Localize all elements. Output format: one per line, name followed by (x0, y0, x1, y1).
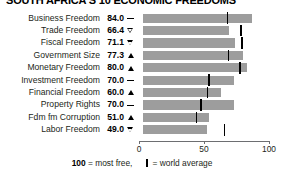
row-label: Labor Freedom (0, 125, 104, 134)
chart-row: Trade Freedom66.4 (0, 24, 284, 36)
trend-glyph (128, 28, 134, 33)
chart-row: Labor Freedom49.0 (0, 124, 284, 136)
trend-down-icon (124, 125, 137, 134)
row-plot (137, 74, 284, 86)
trend-flat-icon (124, 100, 137, 109)
chart-row: Financial Freedom60.0 (0, 86, 284, 98)
trend-glyph (128, 53, 134, 58)
row-plot (137, 37, 284, 49)
row-label: Property Rights (0, 100, 104, 109)
trend-up-icon (124, 63, 137, 72)
world-average-tick (239, 62, 241, 74)
chart-row: Fiscal Freedom71.1 (0, 37, 284, 49)
world-average-tick (196, 112, 198, 124)
row-label: Financial Freedom (0, 88, 104, 97)
row-label: Government Size (0, 51, 104, 60)
row-value: 49.0 (104, 125, 124, 134)
axis-tick-label: 100 (262, 144, 276, 154)
world-average-tick (224, 124, 226, 136)
world-average-tick (208, 74, 210, 86)
trend-down-icon (124, 38, 137, 47)
world-average-tick (241, 37, 243, 49)
trend-up-icon (124, 113, 137, 122)
trend-glyph (128, 115, 134, 120)
row-plot (137, 12, 284, 24)
world-average-marker-icon (146, 159, 148, 167)
row-value: 70.0 (104, 76, 124, 85)
chart-legend: 100 = most free, = world average (0, 158, 284, 169)
economic-freedoms-chart: SOUTH AFRICA'S 10 ECONOMIC FREEDOMS Busi… (0, 0, 284, 176)
legend-world-average-text: = world average (150, 158, 212, 168)
row-plot (137, 49, 284, 61)
trend-down-icon (124, 26, 137, 35)
chart-row: Property Rights70.0 (0, 99, 284, 111)
chart-row: Monetary Freedom80.0 (0, 62, 284, 74)
value-bar (143, 26, 229, 35)
legend-most-free-text: = most free, (86, 158, 133, 168)
trend-flat-icon (124, 76, 137, 85)
value-bar (143, 125, 207, 134)
bar-rows: Business Freedom84.0Trade Freedom66.4Fis… (0, 12, 284, 136)
value-bar (143, 14, 252, 23)
row-label: Monetary Freedom (0, 63, 104, 72)
value-bar (143, 113, 209, 122)
row-value: 71.1 (104, 38, 124, 47)
world-average-tick (227, 12, 229, 24)
chart-row: Investment Freedom70.0 (0, 74, 284, 86)
trend-glyph (127, 80, 134, 82)
value-bar (143, 63, 247, 72)
row-plot (137, 62, 284, 74)
trend-flat-icon (124, 14, 137, 23)
value-bar (143, 88, 221, 97)
row-label: Fdm fm Corruption (0, 113, 104, 122)
world-average-tick (200, 99, 202, 111)
chart-row: Fdm fm Corruption51.0 (0, 111, 284, 123)
row-value: 77.3 (104, 51, 124, 60)
trend-up-icon (124, 88, 137, 97)
axis-tick-label: 0 (137, 144, 142, 154)
row-plot (137, 124, 284, 136)
row-label: Business Freedom (0, 14, 104, 23)
trend-up-icon (124, 51, 137, 60)
trend-glyph (127, 18, 134, 20)
world-average-tick (207, 87, 209, 99)
trend-glyph (128, 66, 134, 71)
value-bar (143, 76, 234, 85)
value-bar (143, 38, 235, 47)
row-plot (137, 86, 284, 98)
row-value: 84.0 (104, 14, 124, 23)
row-plot (137, 99, 284, 111)
row-label: Investment Freedom (0, 76, 104, 85)
world-average-tick (240, 25, 242, 37)
trend-glyph (128, 128, 134, 133)
row-plot (137, 111, 284, 123)
row-value: 80.0 (104, 63, 124, 72)
trend-glyph (127, 105, 134, 107)
row-value: 51.0 (104, 113, 124, 122)
trend-glyph (128, 41, 134, 46)
trend-glyph (128, 90, 134, 95)
axis-tick-label: 50 (199, 144, 208, 154)
row-value: 60.0 (104, 88, 124, 97)
legend-most-free-value: 100 (72, 158, 86, 168)
row-plot (137, 24, 284, 36)
chart-row: Government Size77.3 (0, 49, 284, 61)
row-label: Trade Freedom (0, 26, 104, 35)
value-bar (143, 100, 234, 109)
row-value: 70.0 (104, 100, 124, 109)
row-value: 66.4 (104, 26, 124, 35)
chart-title: SOUTH AFRICA'S 10 ECONOMIC FREEDOMS (6, 0, 278, 6)
chart-row: Business Freedom84.0 (0, 12, 284, 24)
row-label: Fiscal Freedom (0, 38, 104, 47)
world-average-tick (228, 50, 230, 62)
